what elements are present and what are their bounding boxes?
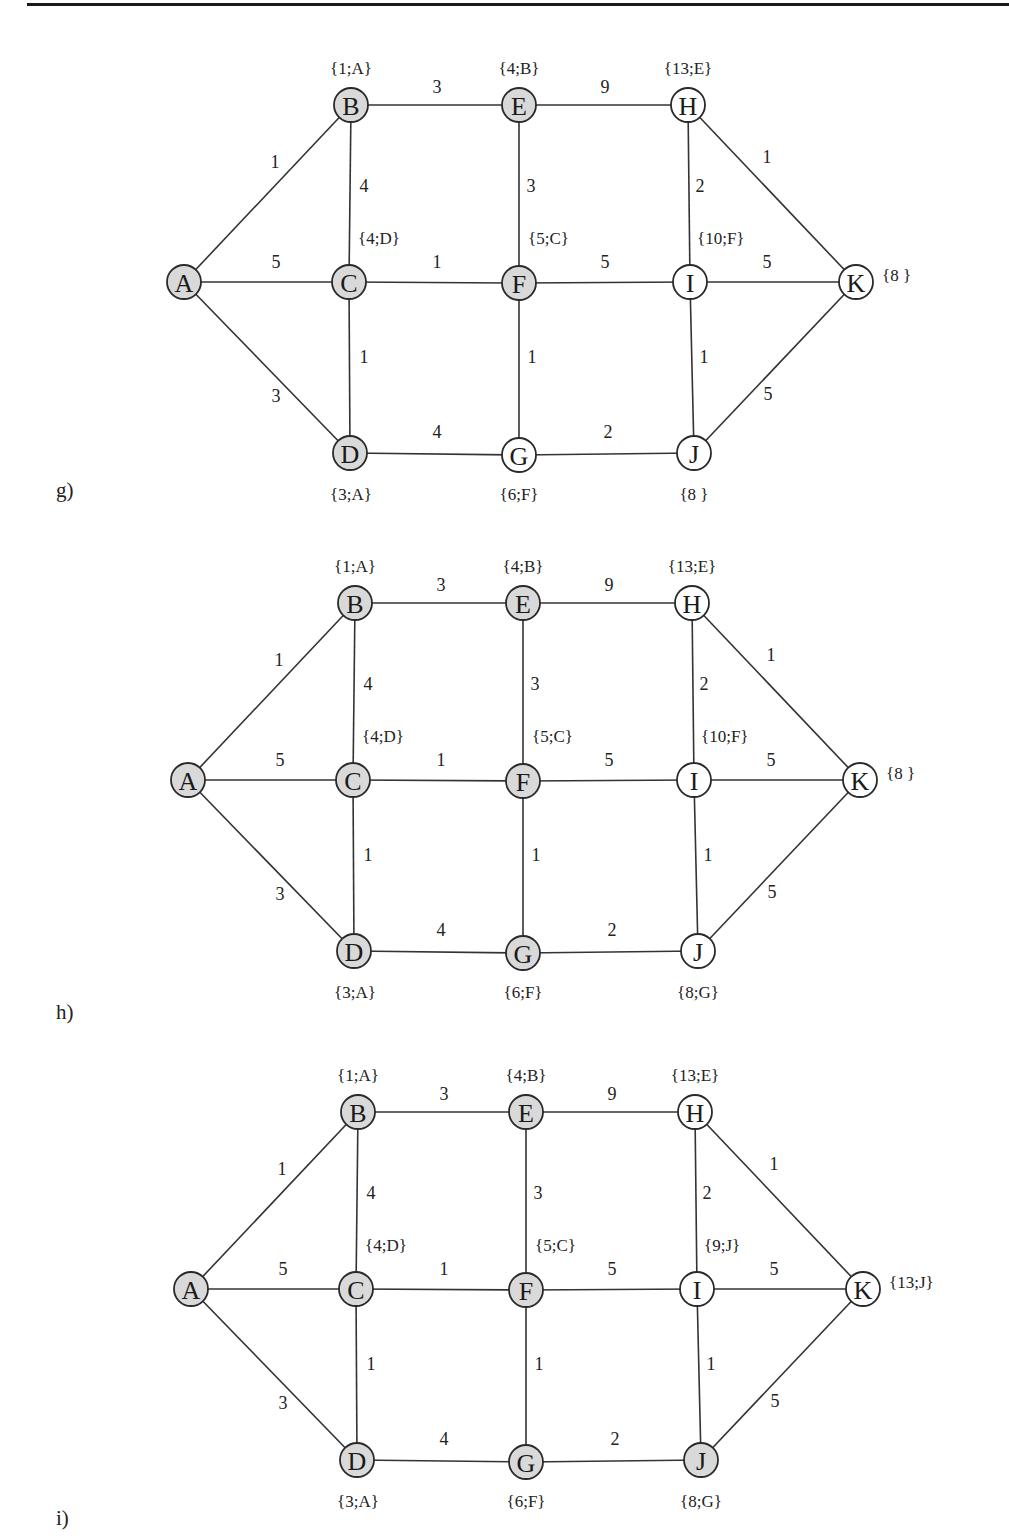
node-label-C: {4;D} <box>362 727 404 746</box>
edge-weight-I-K: 5 <box>763 252 772 272</box>
edge-D-G <box>357 1460 526 1462</box>
edge-D-G <box>354 951 523 953</box>
edge-A-B <box>188 603 355 780</box>
node-label-I: {9;J} <box>704 1236 740 1255</box>
edge-weight-I-K: 5 <box>770 1259 779 1279</box>
edge-weight-A-D: 3 <box>272 386 281 406</box>
edge-C-D <box>356 1289 357 1460</box>
node-C: C <box>339 1272 373 1306</box>
node-E: E <box>506 586 540 620</box>
node-D: D <box>337 934 371 968</box>
edge-weight-A-C: 5 <box>279 1259 288 1279</box>
edge-H-I <box>692 603 694 780</box>
edge-A-D <box>184 282 350 453</box>
node-letter-C: C <box>344 767 361 796</box>
edge-weight-A-C: 5 <box>272 252 281 272</box>
node-G: G <box>506 936 540 970</box>
node-B: B <box>341 1095 375 1129</box>
node-label-B: {1;A} <box>334 557 376 576</box>
node-A: A <box>167 265 201 299</box>
edge-J-K <box>694 282 856 453</box>
edge-I-J <box>690 282 694 453</box>
edge-weight-J-K: 5 <box>764 384 773 404</box>
edge-C-D <box>353 780 354 951</box>
node-label-B: {1;A} <box>337 1066 379 1085</box>
edge-weight-F-I: 5 <box>608 1259 617 1279</box>
edge-weight-A-B: 1 <box>271 152 280 172</box>
edge-weight-H-I: 2 <box>696 176 705 196</box>
edge-B-C <box>353 603 355 780</box>
edge-weight-E-H: 9 <box>608 1084 617 1104</box>
node-D: D <box>340 1443 374 1477</box>
node-letter-F: F <box>512 270 526 299</box>
node-label-H: {13;E} <box>664 59 712 78</box>
node-C: C <box>336 763 370 797</box>
node-E: E <box>509 1095 543 1129</box>
edge-C-F <box>349 282 519 283</box>
node-label-I: {10;F} <box>697 229 745 248</box>
edge-weight-E-H: 9 <box>605 575 614 595</box>
edge-A-B <box>191 1112 358 1289</box>
edge-H-K <box>688 105 856 282</box>
node-letter-D: D <box>348 1447 367 1476</box>
edge-weight-D-G: 4 <box>437 920 446 940</box>
edge-weight-B-C: 4 <box>364 674 373 694</box>
edge-A-B <box>184 105 351 282</box>
edge-weight-J-K: 5 <box>771 1391 780 1411</box>
node-letter-B: B <box>342 92 359 121</box>
node-letter-H: H <box>683 590 702 619</box>
edge-weight-F-I: 5 <box>601 252 610 272</box>
graph-panel-h: 153341149351221515AB{1;A}C{4;D}D{3;A}E{4… <box>0 498 1009 1018</box>
edge-weight-D-G: 4 <box>433 422 442 442</box>
edge-weight-A-D: 3 <box>279 1393 288 1413</box>
node-I: I <box>673 265 707 299</box>
edge-weight-C-F: 1 <box>433 252 442 272</box>
edge-B-C <box>356 1112 358 1289</box>
edge-weight-E-F: 3 <box>534 1183 543 1203</box>
edge-H-I <box>688 105 690 282</box>
node-letter-B: B <box>349 1099 366 1128</box>
node-G: G <box>502 438 536 472</box>
edge-weight-E-F: 3 <box>527 176 536 196</box>
node-G: G <box>509 1445 543 1479</box>
node-label-J: {8;G} <box>677 983 719 1002</box>
node-B: B <box>334 88 368 122</box>
node-F: F <box>502 266 536 300</box>
node-label-F: {5;C} <box>528 229 569 248</box>
node-letter-G: G <box>517 1449 536 1478</box>
edge-A-D <box>188 780 354 951</box>
edge-weight-F-G: 1 <box>535 1354 544 1374</box>
node-label-D: {3;A} <box>337 1492 379 1511</box>
node-J: J <box>684 1443 718 1477</box>
graph-panel-i: 153341149351221515AB{1;A}C{4;D}D{3;A}E{4… <box>0 1004 1009 1539</box>
node-letter-D: D <box>345 938 364 967</box>
edge-weight-E-H: 9 <box>601 77 610 97</box>
node-letter-J: J <box>693 938 703 967</box>
node-letter-K: K <box>847 269 866 298</box>
edge-J-K <box>698 780 860 951</box>
edge-weight-C-D: 1 <box>360 347 369 367</box>
node-letter-A: A <box>175 269 194 298</box>
node-label-K: {8 } <box>886 764 915 783</box>
node-J: J <box>677 436 711 470</box>
edge-I-J <box>694 780 698 951</box>
node-E: E <box>502 88 536 122</box>
node-letter-H: H <box>686 1099 705 1128</box>
edge-weight-B-C: 4 <box>367 1183 376 1203</box>
edge-weight-C-D: 1 <box>367 1354 376 1374</box>
edge-G-J <box>519 453 694 455</box>
edge-weight-G-J: 2 <box>608 920 617 940</box>
edge-weight-H-K: 1 <box>763 147 772 167</box>
edge-weight-A-D: 3 <box>276 884 285 904</box>
node-label-E: {4;B} <box>506 1066 547 1085</box>
node-H: H <box>675 586 709 620</box>
node-letter-A: A <box>179 767 198 796</box>
node-letter-I: I <box>686 269 695 298</box>
edge-weight-H-I: 2 <box>703 1183 712 1203</box>
node-label-B: {1;A} <box>330 59 372 78</box>
edge-weight-G-J: 2 <box>604 422 613 442</box>
node-F: F <box>506 764 540 798</box>
node-label-C: {4;D} <box>358 229 400 248</box>
edge-J-K <box>701 1289 863 1460</box>
node-letter-H: H <box>679 92 698 121</box>
